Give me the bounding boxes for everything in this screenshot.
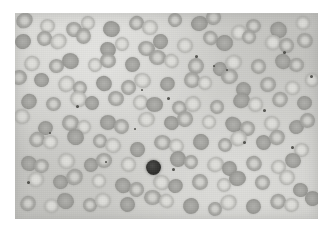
platelet xyxy=(167,97,170,100)
platelet xyxy=(134,128,136,130)
platelet xyxy=(226,69,228,71)
figure-root xyxy=(0,0,334,232)
platelet xyxy=(263,109,266,112)
platelet xyxy=(283,51,286,54)
platelet xyxy=(243,141,246,144)
platelet xyxy=(172,168,175,171)
micrograph-plate xyxy=(15,13,318,219)
platelet xyxy=(141,89,143,91)
platelet xyxy=(195,55,198,58)
platelet xyxy=(213,65,215,67)
platelet-layer xyxy=(15,13,318,219)
platelet xyxy=(27,181,30,184)
platelet xyxy=(76,105,79,108)
platelet xyxy=(291,146,294,149)
platelet xyxy=(49,132,51,134)
platelet xyxy=(310,75,313,78)
platelet xyxy=(105,161,107,163)
